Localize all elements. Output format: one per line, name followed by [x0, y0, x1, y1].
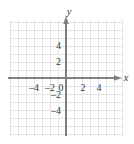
coordinate-plane-svg: x y –4 –2 2 4 0 4 2 –2 –4	[0, 0, 134, 144]
graph-figure: x y –4 –2 2 4 0 4 2 –2 –4	[0, 0, 134, 144]
x-axis-arrowhead	[114, 75, 122, 81]
y-tick-label-2: 2	[56, 56, 61, 67]
x-tick-label--4: –4	[28, 82, 39, 93]
y-axis-label: y	[66, 6, 72, 17]
y-tick-label--2: –2	[50, 89, 61, 100]
x-axis-label: x	[123, 72, 129, 83]
y-tick-label--4: –4	[50, 105, 61, 116]
y-axis-arrowhead	[63, 16, 69, 24]
x-tick-label-4: 4	[97, 82, 102, 93]
y-tick-label-4: 4	[56, 40, 61, 51]
x-tick-label-2: 2	[81, 82, 86, 93]
